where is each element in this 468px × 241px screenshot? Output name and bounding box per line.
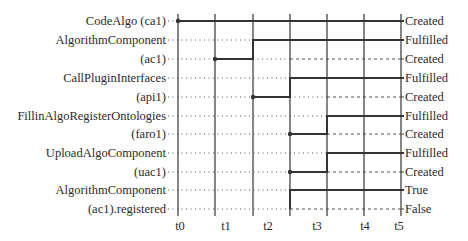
- signal-label-api1-line1: CallPluginInterfaces: [63, 71, 166, 85]
- time-label-t5: t5: [394, 219, 404, 233]
- state-label-uac1-fulfilled: Fulfilled: [405, 146, 448, 160]
- signal-lines: [178, 21, 404, 209]
- signal-label-api1-line2: (api1): [136, 90, 166, 104]
- signal-label-registered-line1: AlgorithmComponent: [56, 183, 166, 197]
- state-label-registered-false: False: [405, 202, 431, 216]
- state-label-uac1-created: Created: [405, 165, 444, 179]
- signal-label-faro1-line1: FillinAlgoRegisterOntologies: [17, 109, 166, 123]
- state-label-ac1-created: Created: [405, 52, 444, 66]
- state-label-faro1-fulfilled: Fulfilled: [405, 109, 448, 123]
- signal-label-registered-line2: (ac1).registered: [88, 202, 166, 216]
- dotted-leaders: [168, 21, 327, 209]
- signal-label-faro1-line2: (faro1): [131, 127, 166, 141]
- time-label-t1: t1: [221, 219, 231, 233]
- signal-label-ac1-line2: (ac1): [140, 52, 166, 66]
- state-label-faro1-created: Created: [405, 127, 444, 141]
- time-label-t2: t2: [263, 219, 273, 233]
- time-label-t4: t4: [360, 219, 370, 233]
- state-label-ac1-fulfilled: Fulfilled: [405, 33, 448, 47]
- timing-diagram: CodeAlgo (ca1) AlgorithmComponent (ac1) …: [0, 0, 468, 241]
- time-label-t3: t3: [312, 219, 322, 233]
- signal-label-uac1-line2: (uac1): [134, 165, 166, 179]
- time-label-t0: t0: [175, 219, 185, 233]
- signal-label-ac1-line1: AlgorithmComponent: [56, 33, 166, 47]
- state-label-api1-created: Created: [405, 90, 444, 104]
- signal-label-uac1-line1: UploadAlgoComponent: [46, 146, 166, 160]
- state-label-registered-true: True: [405, 183, 428, 197]
- state-label-ca1-created: Created: [405, 14, 444, 28]
- signal-label-ca1: CodeAlgo (ca1): [86, 14, 166, 28]
- state-label-api1-fulfilled: Fulfilled: [405, 71, 448, 85]
